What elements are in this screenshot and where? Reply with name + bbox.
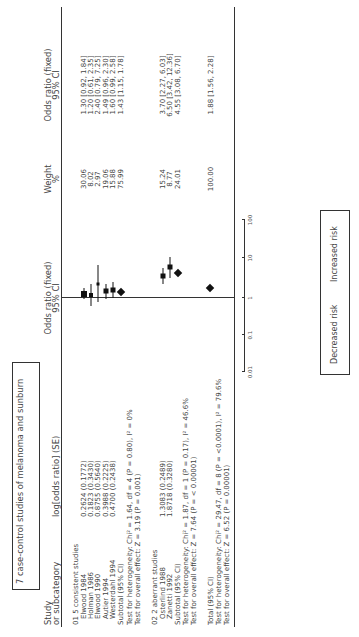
study-marker <box>81 291 87 297</box>
study-marker <box>161 274 166 279</box>
decreased-risk-label: Decreased risk <box>330 305 339 364</box>
tick-mark <box>242 334 245 335</box>
study-name: Elwood 1990 <box>94 574 102 619</box>
total-overall-effect-test: Test for overall effect: Z = 6.52 (P = 0… <box>223 465 231 625</box>
study-weight: 15.88 <box>109 169 117 189</box>
subtotal-weight: 75.99 <box>117 169 125 189</box>
subtotal-weight: 24.01 <box>174 169 182 189</box>
header-plot-ci: 95% CI <box>52 283 61 313</box>
total-label: Total (95% CI) <box>207 576 215 625</box>
study-name: Westerdahl 1994 <box>109 560 117 619</box>
study-weight: 2.97 <box>94 171 102 187</box>
total-weight: 100.00 <box>207 167 215 192</box>
subtotal-or: 4.55 [3.08, 6.70] <box>174 56 182 115</box>
header-weight-unit: % <box>52 175 61 183</box>
tick-mark <box>242 219 245 220</box>
study-marker <box>168 265 173 270</box>
risk-direction-box: Decreased risk Increased risk <box>320 210 350 375</box>
study-or: 1.60 [0.99, 2.58] <box>109 56 117 115</box>
tick-label: 0.01 <box>247 366 253 378</box>
tick-label: 1 <box>247 296 253 300</box>
heterogeneity-test: Test for heterogeneity: Chi² = 1.87, df … <box>182 398 190 625</box>
overall-effect-test: Test for overall effect: Z = 7.64 (P = <… <box>190 457 198 625</box>
subtotal-diamond <box>117 288 125 296</box>
forest-plot-rotated: 7 case-control studies of melanoma and s… <box>0 0 359 637</box>
top-rule <box>61 7 62 627</box>
study-marker <box>89 293 93 297</box>
total-diamond <box>206 284 214 292</box>
increased-risk-label: Increased risk <box>330 226 339 282</box>
tick-label: 100 <box>247 215 253 226</box>
study-marker <box>104 289 109 294</box>
header-subcategory: or subcategory <box>52 562 61 625</box>
study-log: 0.4700 (0.2438) <box>109 460 117 517</box>
study-name: Zanetti 1992 <box>166 574 174 619</box>
header-log-or: log[odds ratio] (SE) <box>52 436 61 517</box>
group-label: 02 2 aberrant studies <box>151 550 159 625</box>
study-marker <box>111 288 116 293</box>
header-or-ci: 95% CI <box>52 70 61 100</box>
subtotal-label: Subtotal (95% CI) <box>117 563 125 625</box>
study-log: 1.8718 (0.3280) <box>166 460 174 517</box>
study-marker <box>97 283 100 286</box>
overall-effect-test: Test for overall effect: Z = 3.19 (P = 0… <box>134 474 142 625</box>
tick-mark <box>242 257 245 258</box>
study-or: 6.50 [3.42, 12.36] <box>166 53 174 116</box>
no-effect-line <box>61 297 234 298</box>
tick-mark <box>242 371 245 372</box>
subtotal-diamond <box>174 269 182 277</box>
chart-title: 7 case-control studies of melanoma and s… <box>12 362 40 590</box>
tick-label: 0.1 <box>247 331 253 340</box>
subtotal-label: Subtotal (95% CI) <box>174 563 182 625</box>
study-weight: 8.77 <box>166 171 174 187</box>
tick-label: 10 <box>247 255 253 262</box>
study-or: 2.40 [0.79, 7.25] <box>94 56 102 115</box>
heterogeneity-test: Test for heterogeneity: Chi² = 1.64, df … <box>126 409 134 625</box>
subtotal-or: 1.43 [1.15, 1.78] <box>117 56 125 115</box>
group-label: 01 5 consistent studies <box>72 544 80 625</box>
total-or: 1.88 [1.56, 2.28] <box>207 56 215 115</box>
total-heterogeneity-test: Test for heterogeneity: Chi² = 29.47, df… <box>215 379 223 625</box>
study-log: 0.8755 (0.5640) <box>94 460 102 517</box>
bottom-rule <box>234 7 235 627</box>
tick-mark <box>242 297 245 298</box>
x-axis <box>244 220 245 372</box>
